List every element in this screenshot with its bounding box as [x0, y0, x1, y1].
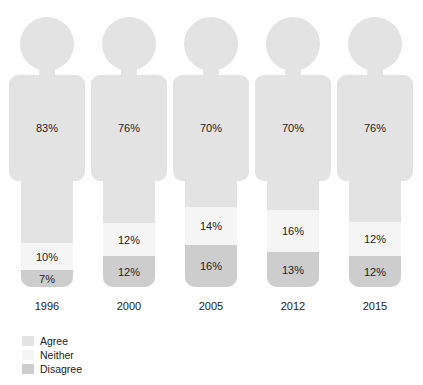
legend-item-disagree: Disagree [22, 362, 82, 376]
person-legs: 14% 16% [185, 170, 237, 287]
agree-value: 70% [252, 122, 334, 134]
neither-segment: 12% [103, 223, 155, 256]
neither-value: 10% [36, 251, 58, 263]
agree-value: 70% [170, 122, 252, 134]
person-figure-2015: 12% 12% 76% 2015 [334, 0, 416, 320]
person-head-icon [20, 17, 74, 71]
legend-label: Agree [40, 335, 68, 347]
person-figure-2000: 12% 12% 76% 2000 [88, 0, 170, 320]
legend-swatch-disagree [22, 364, 34, 374]
year-label: 2015 [334, 300, 416, 312]
person-legs: 10% 7% [21, 170, 73, 287]
disagree-segment: 7% [21, 270, 73, 287]
disagree-value: 12% [118, 266, 140, 278]
person-head-icon [184, 17, 238, 71]
legend-label: Neither [40, 349, 74, 361]
disagree-value: 7% [39, 273, 55, 285]
agree-value: 83% [6, 122, 88, 134]
person-head-icon [266, 17, 320, 71]
neither-segment: 16% [267, 210, 319, 252]
neither-value: 12% [364, 233, 386, 245]
disagree-segment: 12% [349, 256, 401, 287]
neither-segment: 10% [21, 243, 73, 270]
person-legs: 12% 12% [349, 170, 401, 287]
legend-swatch-neither [22, 350, 34, 360]
person-figure-2012: 16% 13% 70% 2012 [252, 0, 334, 320]
legend-item-agree: Agree [22, 334, 82, 348]
person-figure-2005: 14% 16% 70% 2005 [170, 0, 252, 320]
agree-value: 76% [88, 122, 170, 134]
neither-value: 14% [200, 220, 222, 232]
year-label: 2005 [170, 300, 252, 312]
neither-value: 12% [118, 234, 140, 246]
person-head-icon [102, 17, 156, 71]
disagree-value: 13% [282, 264, 304, 276]
legend-swatch-agree [22, 336, 34, 346]
disagree-value: 12% [364, 266, 386, 278]
legend-label: Disagree [40, 363, 82, 375]
person-legs: 12% 12% [103, 170, 155, 287]
disagree-segment: 13% [267, 252, 319, 287]
neither-segment: 12% [349, 222, 401, 256]
neither-segment: 14% [185, 207, 237, 245]
neither-value: 16% [282, 225, 304, 237]
year-label: 2012 [252, 300, 334, 312]
disagree-value: 16% [200, 260, 222, 272]
agree-value: 76% [334, 122, 416, 134]
person-legs: 16% 13% [267, 170, 319, 287]
disagree-segment: 16% [185, 245, 237, 287]
legend-item-neither: Neither [22, 348, 82, 362]
disagree-segment: 12% [103, 256, 155, 287]
person-head-icon [348, 17, 402, 71]
person-figure-1996: 10% 7% 83% 1996 [6, 0, 88, 320]
year-label: 1996 [6, 300, 88, 312]
year-label: 2000 [88, 300, 170, 312]
legend: Agree Neither Disagree [22, 334, 82, 376]
